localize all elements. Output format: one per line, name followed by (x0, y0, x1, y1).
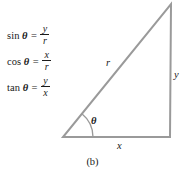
trig-ratios-figure: sin θ = y r cos θ = x r tan θ = y (0, 0, 185, 173)
hypotenuse-label: r (106, 58, 110, 69)
vertical-leg-label: y (174, 70, 179, 81)
triangle-outline (63, 4, 171, 137)
horizontal-leg-label: x (117, 141, 122, 152)
figure-caption: (b) (0, 156, 185, 167)
right-triangle-drawing (0, 0, 185, 158)
angle-theta-label: θ (91, 116, 96, 127)
